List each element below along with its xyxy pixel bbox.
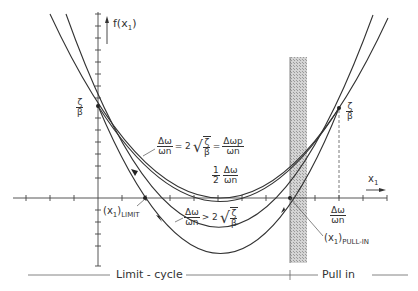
- eq-critical-eq: =: [213, 142, 221, 151]
- eq-greater-sqrt-den: β: [230, 219, 238, 228]
- sqrt-icon: √: [220, 210, 230, 226]
- region-limit-cycle: Limit - cycle: [116, 269, 183, 280]
- x-pullin-label: (x1)PULL-IN: [324, 233, 369, 246]
- pull-in-band: [290, 57, 307, 263]
- y-axis: [95, 12, 101, 266]
- x-axis-label: x1: [368, 174, 378, 187]
- x-axis-label-sub: 1: [374, 179, 378, 187]
- eq-critical-mid: = 2: [175, 142, 191, 151]
- delta-omega-axis-den: ωn: [330, 216, 345, 225]
- beta-left-den: β: [76, 108, 84, 117]
- eq-critical-sqrt-den: β: [203, 148, 211, 157]
- half-coef-den: 2: [212, 176, 220, 185]
- x-pullin-sub2: PULL-IN: [342, 238, 369, 246]
- x-pullin-text: (x: [324, 232, 334, 243]
- eq-greater-mid: > 2: [202, 213, 218, 222]
- eq-greater: Δωωn > 2 √ζβ: [184, 207, 238, 228]
- x-axis-arrow-icon: [366, 188, 386, 192]
- y-axis-label: f(x1): [113, 18, 136, 32]
- zeta-beta-right: ζβ: [346, 102, 354, 121]
- beta-right-den: β: [346, 112, 354, 121]
- y-axis-label-close: ): [132, 17, 136, 30]
- y-axis-arrow-icon: [105, 16, 109, 44]
- x-limit-label: (x1)LIMIT: [103, 206, 140, 219]
- half-den: ωn: [223, 176, 238, 185]
- region-pull-in: Pull in: [322, 269, 355, 280]
- point-right-intersection: [337, 106, 341, 110]
- leader-greater: [175, 218, 183, 222]
- x-limit-text: (x: [103, 205, 113, 216]
- eq-critical-lhs-den: ωn: [157, 147, 172, 156]
- curve-outer-steep: [66, 14, 373, 227]
- leader-critical: [143, 149, 155, 156]
- zeta-beta-left: ζβ: [76, 98, 84, 117]
- eq-greater-lhs-den: ωn: [184, 218, 199, 227]
- leader-x-limit: [137, 199, 145, 206]
- half-term: 12 Δωωn: [212, 166, 238, 185]
- delta-omega-axis-label: Δωωn: [330, 206, 346, 225]
- eq-critical: Δωωn = 2 √ζβ = Δωpωn: [157, 136, 244, 157]
- y-axis-label-text: f(x: [113, 17, 128, 30]
- eq-critical-rhs-den: ωn: [225, 147, 240, 156]
- x-limit-sub2: LIMIT: [121, 211, 139, 219]
- point-left-intersection: [96, 104, 100, 108]
- sqrt-icon: √: [193, 139, 203, 155]
